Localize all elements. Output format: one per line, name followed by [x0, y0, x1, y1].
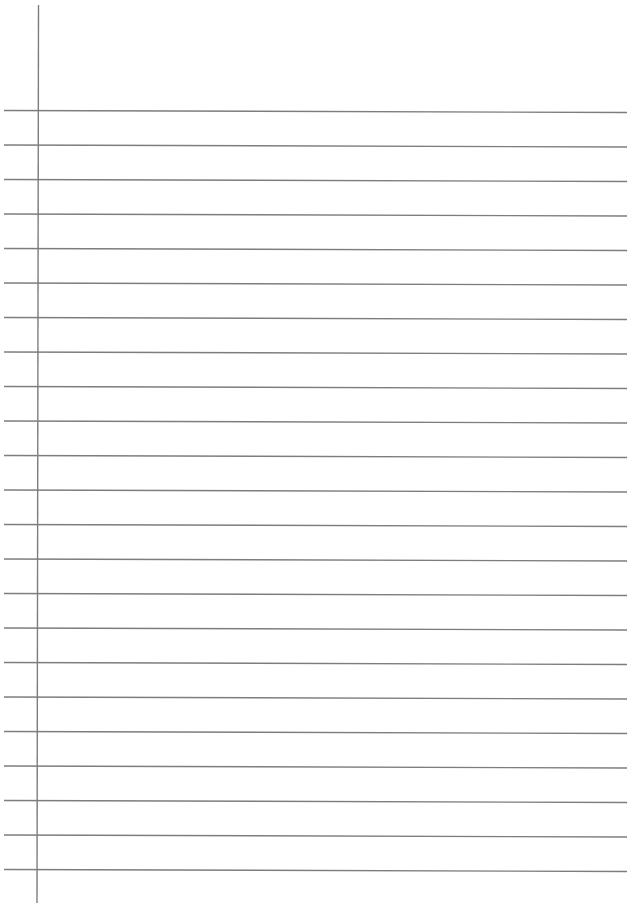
rule-line	[4, 870, 627, 872]
rule-line	[4, 318, 627, 320]
ruled-lines	[0, 0, 627, 903]
rule-line	[4, 801, 627, 803]
rule-line	[4, 766, 627, 768]
rule-line	[4, 594, 627, 596]
rule-line	[4, 249, 627, 251]
rule-line	[4, 490, 627, 492]
margin-line	[37, 5, 39, 903]
rule-line	[4, 525, 627, 527]
rule-line	[4, 283, 627, 285]
lined-paper-sheet	[0, 0, 627, 903]
rule-line	[4, 663, 627, 665]
rule-line	[4, 111, 627, 113]
rule-line	[4, 387, 627, 389]
rule-line	[4, 145, 627, 147]
rule-line	[4, 732, 627, 734]
rule-line	[4, 835, 627, 837]
rule-line	[4, 180, 627, 182]
rule-line	[4, 352, 627, 354]
rule-line	[4, 421, 627, 423]
rule-line	[4, 456, 627, 458]
rule-line	[4, 628, 627, 630]
rule-line	[4, 214, 627, 216]
rule-line	[4, 559, 627, 561]
rule-line	[4, 697, 627, 699]
